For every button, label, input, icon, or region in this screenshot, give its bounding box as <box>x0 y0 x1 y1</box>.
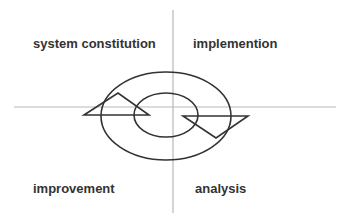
quadrant-label-system-constitution: system constitution <box>33 37 156 50</box>
quadrant-label-implemention: implemention <box>193 37 278 50</box>
quadrant-label-analysis: analysis <box>195 182 246 195</box>
quadrant-label-improvement: improvement <box>33 182 115 195</box>
cycle-diagram: system constitution implemention improve… <box>0 0 345 220</box>
